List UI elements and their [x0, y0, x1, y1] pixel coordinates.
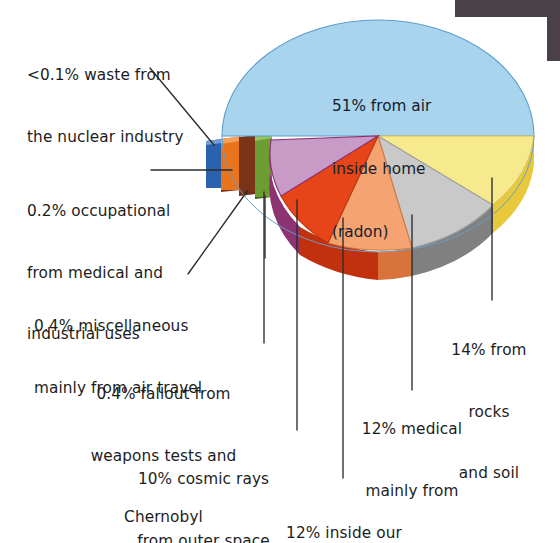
- callout-fallout-line1: 0.4% fallout from: [86, 384, 241, 405]
- callout-rocks-and-soil-line1: 14% from: [424, 340, 554, 361]
- leader-miscellaneous: [188, 190, 248, 274]
- pie-slice-nuclear-waste[interactable]: [206, 139, 222, 188]
- callout-occupational-line1: 0.2% occupational: [27, 201, 170, 222]
- chart-figure: 51% from air inside home (radon) <0.1% w…: [0, 0, 560, 543]
- pie-label-radon-line3: (radon): [332, 222, 431, 243]
- pie-label-radon-line1: 51% from air: [332, 96, 431, 117]
- pie-label-radon: 51% from air inside home (radon): [332, 54, 431, 285]
- callout-nuclear-waste-line2: the nuclear industry: [27, 127, 184, 148]
- callout-miscellaneous-line1: 0.4% miscellaneous: [34, 316, 202, 337]
- pie-slice-occupational[interactable]: [221, 136, 240, 192]
- callout-rocks-and-soil-line3: and soil: [424, 463, 554, 484]
- callout-nuclear-waste-line1: <0.1% waste from: [27, 65, 184, 86]
- pie-label-radon-line2: inside home: [332, 159, 431, 180]
- pie-slice-occupational-dark: [239, 135, 256, 196]
- callout-rocks-and-soil: 14% from rocks and soil: [424, 299, 554, 525]
- callout-rocks-and-soil-line2: rocks: [424, 402, 554, 423]
